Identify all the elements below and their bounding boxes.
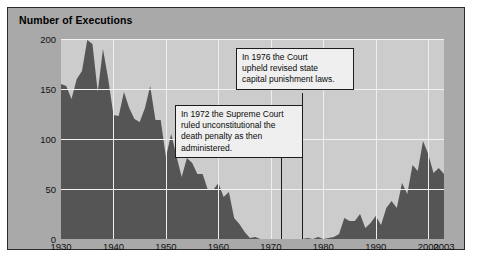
x-axis: 193019401950196019701980199020002003 xyxy=(8,241,464,255)
annotation-line: capital punishment laws. xyxy=(242,74,348,85)
x-axis-tick-label: 1930 xyxy=(50,241,71,252)
x-axis-tick-label: 1940 xyxy=(103,241,124,252)
x-axis-tick-label: 1950 xyxy=(155,241,176,252)
gridline-horizontal xyxy=(61,39,444,40)
gridline-vertical xyxy=(428,39,429,239)
x-axis-tick-label: 1960 xyxy=(208,241,229,252)
annotation-line: administered. xyxy=(181,143,297,154)
x-axis-tick-label: 1970 xyxy=(260,241,281,252)
gridline-vertical xyxy=(113,39,114,239)
gridline-vertical xyxy=(166,39,167,239)
annotation-line: ruled unconstitutional the xyxy=(181,120,297,131)
annotation-line: upheld revised state xyxy=(242,63,348,74)
x-axis-tick-label: 1980 xyxy=(313,241,334,252)
gridline-horizontal xyxy=(61,189,444,190)
annotation-line: In 1972 the Supreme Court xyxy=(181,109,297,120)
x-axis-tick-label: 2003 xyxy=(433,241,454,252)
y-axis: 050100150200 xyxy=(8,39,56,239)
y-axis-tick-label: 150 xyxy=(40,84,56,95)
leader-line-1972 xyxy=(281,150,282,239)
annotation-callout-1972: In 1972 the Supreme Courtruled unconstit… xyxy=(175,105,303,158)
y-axis-tick-label: 50 xyxy=(45,184,56,195)
y-axis-tick-label: 100 xyxy=(40,134,56,145)
x-axis-tick-label: 1990 xyxy=(365,241,386,252)
y-axis-tick-label: 200 xyxy=(40,34,56,45)
page-title: Number of Executions xyxy=(19,14,132,26)
chart-figure: Number of Executions 050100150200 193019… xyxy=(7,7,465,250)
gridline-vertical xyxy=(376,39,377,239)
annotation-line: In 1976 the Court xyxy=(242,52,348,63)
annotation-callout-1976: In 1976 the Courtupheld revised statecap… xyxy=(236,48,354,90)
annotation-line: death penalty as then xyxy=(181,131,297,142)
